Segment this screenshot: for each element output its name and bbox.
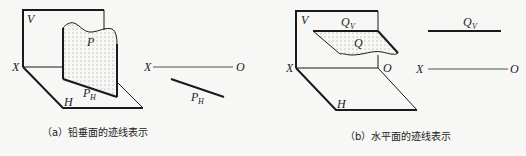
label-o-projection: O <box>510 62 519 76</box>
svg-text:H: H <box>89 93 97 102</box>
label-v: V <box>27 12 36 26</box>
h-plane-right-edge <box>117 82 143 108</box>
label-h: H <box>336 97 347 111</box>
svg-text:Q: Q <box>341 15 350 29</box>
caption-b: （b）水平面的迹线表示 <box>345 130 451 142</box>
label-x: X <box>285 61 294 75</box>
svg-text:V: V <box>350 22 356 31</box>
label-qv: Q V <box>341 15 356 31</box>
label-qv-projection: Q V <box>463 15 478 31</box>
label-o: O <box>383 61 392 75</box>
label-h: H <box>63 95 74 109</box>
label-o-projection: O <box>236 60 245 74</box>
label-x: X <box>11 60 20 74</box>
label-p: P <box>86 35 95 49</box>
label-x-projection: X <box>143 60 152 74</box>
figure-a-projection: X O P H <box>143 60 245 106</box>
figure-b-oblique-view: V X H O Q Q V <box>285 11 417 111</box>
h-plane-edge <box>296 68 417 110</box>
svg-text:H: H <box>197 97 205 106</box>
label-ph-projection: P H <box>190 90 205 106</box>
diagram-canvas: V X H P P H X O P H （a）铅垂面的迹线表示 <box>0 0 526 156</box>
label-x-projection: X <box>415 62 424 76</box>
figure-a-oblique-view: V X H P P H <box>11 10 143 109</box>
trace-diagram: V X H P P H X O P H （a）铅垂面的迹线表示 <box>0 0 526 156</box>
svg-text:Q: Q <box>463 15 472 29</box>
label-v: V <box>301 13 310 27</box>
caption-a: （a）铅垂面的迹线表示 <box>42 126 148 138</box>
svg-text:V: V <box>472 22 478 31</box>
label-q: Q <box>354 36 363 50</box>
figure-b-projection: Q V X O <box>415 15 519 76</box>
